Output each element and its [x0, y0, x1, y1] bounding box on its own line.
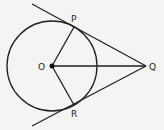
- label-o: O: [38, 62, 45, 72]
- center-point-o: [50, 64, 55, 69]
- radius-op: [52, 27, 74, 66]
- radius-or: [52, 66, 74, 105]
- geometry-diagram: O P R Q: [0, 0, 164, 130]
- label-r: R: [71, 109, 77, 119]
- tangent-line-qp: [32, 4, 146, 66]
- tangent-line-qr: [32, 66, 146, 126]
- label-q: Q: [149, 62, 156, 72]
- label-p: P: [71, 14, 77, 24]
